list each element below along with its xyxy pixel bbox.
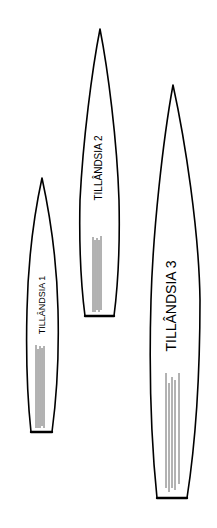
leaf-1-label: TILLÂNDSIA 1 — [37, 276, 47, 335]
leaf-2: TILLÂNDSIA 2 — [80, 29, 120, 316]
tillandsia-leaves-diagram: TILLÂNDSIA 1 TILLÂNDSIA 2 TILLÂNDSIA 3 — [0, 0, 217, 528]
leaf-2-label: TILLÂNDSIA 2 — [92, 135, 104, 200]
leaf-3: TILLÂNDSIA 3 — [150, 85, 200, 498]
leaf-1: TILLÂNDSIA 1 — [27, 178, 59, 432]
leaf-3-label: TILLÂNDSIA 3 — [163, 260, 179, 351]
